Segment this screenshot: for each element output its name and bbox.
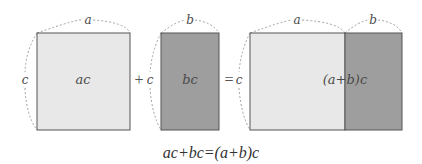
- brace-c-top: [150, 33, 161, 72]
- brace-c-top: [239, 33, 250, 72]
- width-label-b: b: [186, 13, 194, 27]
- distributive-property-diagram: a c ac + b c bc = a b c (a+b)c ac+bc=(a+…: [0, 0, 422, 164]
- brace-a-left: [37, 20, 83, 33]
- height-label-c: c: [22, 73, 29, 87]
- rect-combined-group: a b c (a+b)c: [236, 13, 402, 130]
- area-label-bc: bc: [182, 72, 198, 87]
- brace-b-left: [161, 20, 185, 33]
- equation: ac+bc=(a+b)c: [163, 144, 259, 162]
- rect-ac-group: a c ac: [22, 13, 130, 130]
- width-label-b: b: [369, 13, 377, 27]
- brace-b-right: [195, 20, 219, 33]
- height-label-c: c: [147, 73, 154, 87]
- brace-a-right: [302, 20, 345, 33]
- brace-c-bottom: [150, 88, 161, 130]
- brace-c-bottom: [25, 88, 37, 130]
- brace-c-top: [25, 33, 37, 72]
- height-label-c: c: [236, 73, 243, 87]
- brace-c-bottom: [239, 88, 250, 130]
- brace-a-right: [93, 20, 130, 33]
- area-label-ac: ac: [75, 72, 91, 87]
- width-label-a: a: [293, 13, 300, 27]
- brace-b-left: [345, 20, 368, 33]
- rect-bc-group: b c bc: [147, 13, 219, 130]
- brace-a-left: [250, 20, 292, 33]
- brace-b-right: [378, 20, 402, 33]
- area-label-combined: (a+b)c: [323, 72, 368, 87]
- width-label-a: a: [84, 13, 91, 27]
- equals-sign: =: [224, 71, 233, 88]
- plus-sign: +: [134, 71, 143, 88]
